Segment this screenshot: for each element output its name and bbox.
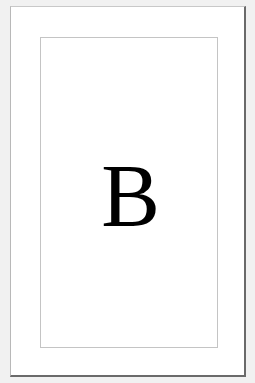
- card-letter: B: [44, 152, 217, 240]
- inner-frame: B: [40, 37, 218, 348]
- letter-card[interactable]: B: [10, 6, 246, 377]
